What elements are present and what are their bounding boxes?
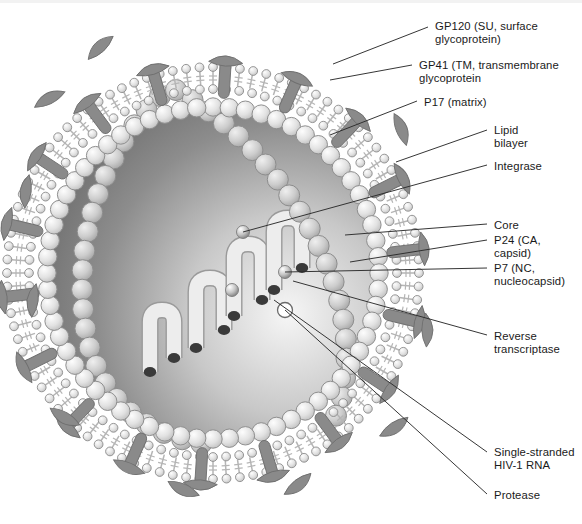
p17-matrix-bead bbox=[204, 98, 222, 116]
phospholipid-tail-kink bbox=[248, 79, 256, 81]
phospholipid-tail bbox=[200, 71, 201, 85]
phospholipid-head-outer bbox=[262, 70, 271, 79]
phospholipid-tail bbox=[285, 447, 290, 460]
phospholipid-tail bbox=[22, 333, 35, 338]
phospholipid-head-outer bbox=[404, 335, 413, 344]
phospholipid-tail bbox=[382, 356, 395, 362]
p17-matrix-bead bbox=[220, 429, 238, 447]
phospholipid-tail-kink bbox=[222, 465, 230, 466]
phospholipid-head-inner bbox=[308, 114, 317, 123]
phospholipid-head-inner bbox=[132, 101, 141, 110]
phospholipid-tail bbox=[32, 184, 45, 190]
label-lipid: Lipid bilayer bbox=[494, 124, 528, 150]
phospholipid-head-outer bbox=[3, 255, 12, 264]
phospholipid-tail bbox=[395, 221, 409, 225]
phospholipid-head-outer bbox=[236, 64, 245, 73]
phospholipid-head-outer bbox=[4, 242, 13, 251]
phospholipid-head-inner bbox=[41, 192, 50, 201]
rna-1-cap bbox=[168, 353, 180, 363]
phospholipid-head-outer bbox=[287, 459, 296, 468]
phospholipid-tail-kink bbox=[23, 307, 25, 315]
phospholipid-head-inner bbox=[36, 204, 45, 213]
phospholipid-tail-kink bbox=[409, 282, 410, 290]
phospholipid-tail-kink bbox=[183, 77, 191, 78]
p24-capsid-bead bbox=[329, 290, 350, 311]
phospholipid-tail-kink bbox=[184, 81, 192, 82]
phospholipid-head-outer bbox=[249, 471, 258, 480]
label-p24: P24 (CA, capsid) bbox=[494, 234, 541, 260]
phospholipid-head-outer bbox=[393, 360, 402, 369]
p24-capsid-bead bbox=[82, 202, 103, 223]
phospholipid-head-outer bbox=[106, 90, 115, 99]
phospholipid-tail-kink bbox=[319, 107, 326, 111]
phospholipid-tail bbox=[148, 451, 153, 464]
gp120-free-cap bbox=[390, 111, 413, 147]
phospholipid-head-inner bbox=[98, 416, 107, 425]
phospholipid-head-outer bbox=[399, 347, 408, 356]
phospholipid-tail bbox=[391, 333, 404, 338]
phospholipid-head-inner bbox=[170, 448, 179, 457]
phospholipid-head-outer bbox=[130, 78, 139, 87]
leader-line-lipid bbox=[396, 130, 487, 162]
p17-matrix-bead bbox=[188, 99, 206, 117]
p24-capsid-bead bbox=[333, 309, 354, 330]
p24-capsid-bead bbox=[72, 279, 93, 300]
p17-matrix-bead bbox=[39, 248, 57, 266]
phospholipid-head-outer bbox=[94, 440, 103, 449]
phospholipid-head-outer bbox=[83, 432, 92, 441]
phospholipid-head-inner bbox=[32, 320, 41, 329]
gp120-free-cap bbox=[31, 86, 66, 111]
rna-3-cap bbox=[228, 311, 240, 321]
rt-sphere bbox=[226, 284, 239, 297]
phospholipid-head-inner bbox=[235, 451, 244, 460]
phospholipid-head-outer bbox=[155, 468, 164, 477]
phospholipid-head-inner bbox=[25, 269, 34, 278]
phospholipid-head-outer bbox=[372, 394, 381, 403]
phospholipid-head-inner bbox=[319, 121, 328, 130]
label-integrase: Integrase bbox=[494, 160, 542, 173]
label-rt: Reverse transcriptase bbox=[494, 330, 560, 356]
phospholipid-tail bbox=[11, 260, 25, 261]
phospholipid-head-inner bbox=[356, 379, 365, 388]
p17-matrix-bead bbox=[369, 280, 387, 298]
phospholipid-head-outer bbox=[364, 404, 373, 413]
phospholipid-head-inner bbox=[339, 399, 348, 408]
label-gp120: GP120 (SU, surface glycoprotein) bbox=[435, 20, 538, 46]
phospholipid-tail bbox=[225, 461, 226, 475]
phospholipid-head-inner bbox=[109, 114, 118, 123]
phospholipid-tail bbox=[187, 459, 189, 473]
phospholipid-head-inner bbox=[381, 333, 390, 342]
phospholipid-tail-kink bbox=[317, 431, 324, 435]
phospholipid-tail-kink bbox=[183, 468, 191, 469]
phospholipid-head-inner bbox=[182, 451, 191, 460]
phospholipid-head-outer bbox=[168, 67, 177, 76]
phospholipid-tail bbox=[112, 436, 119, 448]
p17-matrix-bead bbox=[41, 296, 59, 314]
phospholipid-head-outer bbox=[14, 202, 23, 211]
phospholipid-tail-kink bbox=[20, 282, 21, 290]
phospholipid-tail-kink bbox=[375, 160, 379, 167]
phospholipid-head-outer bbox=[414, 282, 423, 291]
phospholipid-tail-kink bbox=[317, 110, 324, 114]
p17-matrix-bead bbox=[220, 99, 238, 117]
phospholipid-tail-kink bbox=[371, 162, 375, 169]
phospholipid-head-outer bbox=[195, 63, 204, 72]
phospholipid-head-inner bbox=[120, 107, 129, 116]
phospholipid-tail bbox=[187, 73, 189, 87]
phospholipid-tail-kink bbox=[100, 107, 107, 111]
p24-capsid-bead bbox=[72, 260, 93, 281]
phospholipid-tail bbox=[124, 92, 130, 105]
phospholipid-head-inner bbox=[88, 130, 97, 139]
phospholipid-tail-kink bbox=[100, 435, 107, 439]
phospholipid-head-outer bbox=[344, 424, 353, 433]
phospholipid-head-inner bbox=[36, 333, 45, 342]
phospholipid-tail bbox=[262, 78, 266, 92]
phospholipid-head-outer bbox=[118, 84, 127, 93]
phospholipid-tail bbox=[13, 247, 27, 249]
phospholipid-head-outer bbox=[236, 473, 245, 482]
phospholipid-head-inner bbox=[196, 85, 205, 94]
phospholipid-tail bbox=[26, 345, 39, 350]
rna-2-cap bbox=[218, 325, 230, 335]
phospholipid-head-inner bbox=[235, 87, 244, 96]
phospholipid-head-outer bbox=[275, 74, 284, 83]
